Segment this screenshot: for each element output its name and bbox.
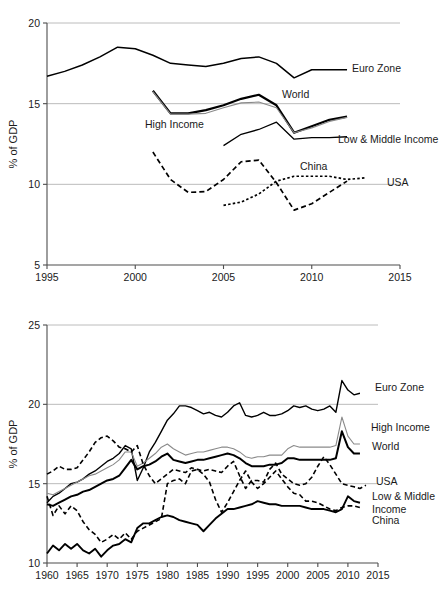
x-tick-label-1995: 1995: [35, 271, 59, 283]
gridlines-group: [47, 23, 400, 184]
x-tick-label-2005: 2005: [306, 569, 330, 581]
series-label-high-income: High Income: [371, 421, 430, 433]
x-tick-label-1990: 1990: [216, 569, 240, 581]
x-tick-label-1970: 1970: [96, 569, 120, 581]
series-group: [47, 47, 365, 210]
y-tick-group: 10152025: [28, 319, 47, 569]
x-tick-label-1965: 1965: [65, 569, 89, 581]
series-label-low-middle-income: Low & Middle Income: [338, 133, 439, 145]
x-tick-label-2010: 2010: [300, 271, 324, 283]
chart-top-svg: 510152019952000200520102015% of GDPEuro …: [0, 0, 447, 300]
series-line-high-income: [47, 417, 360, 495]
chart-bottom-panel: 1015202519601965197019751980198519901995…: [0, 300, 447, 598]
y-tick-group: 5101520: [28, 17, 47, 271]
series-label-world: World: [372, 440, 399, 452]
x-tick-label-2000: 2000: [124, 271, 148, 283]
y-tick-label-5: 5: [34, 259, 40, 271]
series-label-high-income: High Income: [145, 118, 204, 130]
x-tick-label-2005: 2005: [212, 271, 236, 283]
series-label-euro-zone: Euro Zone: [375, 381, 424, 393]
series-label-world: World: [282, 88, 309, 100]
x-tick-group: 19952000200520102015: [35, 265, 412, 283]
y-tick-label-20: 20: [28, 398, 40, 410]
series-label-china: China: [372, 514, 400, 526]
series-line-world: [47, 431, 360, 506]
series-line-low-middle-income: [47, 496, 360, 556]
x-tick-label-2010: 2010: [336, 569, 360, 581]
series-line-usa: [224, 176, 365, 205]
y-tick-label-10: 10: [28, 557, 40, 569]
y-tick-label-15: 15: [28, 478, 40, 490]
x-tick-label-1980: 1980: [156, 569, 180, 581]
chart-bottom-svg: 1015202519601965197019751980198519901995…: [0, 300, 447, 598]
series-line-euro-zone: [47, 47, 347, 78]
y-tick-label-15: 15: [28, 98, 40, 110]
series-line-low-middle-income: [224, 122, 348, 145]
y-axis-title: % of GDP: [7, 420, 19, 469]
top-series-labels: Euro ZoneWorldHigh IncomeLow & Middle In…: [145, 62, 439, 188]
y-tick-label-10: 10: [28, 178, 40, 190]
x-tick-label-2015: 2015: [366, 569, 390, 581]
series-line-euro-zone: [47, 381, 360, 503]
series-group: [47, 381, 366, 557]
series-label-low-middle: Low & Middle: [372, 490, 435, 502]
series-label-usa: USA: [376, 475, 398, 487]
axes-group: [47, 325, 378, 563]
series-line-usa: [47, 436, 366, 488]
series-label-euro-zone: Euro Zone: [352, 62, 401, 74]
x-tick-label-2000: 2000: [276, 569, 300, 581]
x-tick-label-1960: 1960: [35, 569, 59, 581]
x-tick-group: 1960196519701975198019851990199520002005…: [35, 563, 390, 581]
x-tick-label-1995: 1995: [246, 569, 270, 581]
y-tick-label-25: 25: [28, 319, 40, 331]
series-label-usa: USA: [387, 176, 409, 188]
chart-top-panel: 510152019952000200520102015% of GDPEuro …: [0, 0, 447, 300]
x-tick-label-1985: 1985: [186, 569, 210, 581]
y-axis-title: % of GDP: [7, 120, 19, 169]
x-tick-label-1975: 1975: [126, 569, 150, 581]
y-tick-label-20: 20: [28, 17, 40, 29]
bottom-series-labels: Euro ZoneHigh IncomeWorldUSALow & Middle…: [371, 381, 435, 526]
x-tick-label-2015: 2015: [388, 271, 412, 283]
series-label-china: China: [300, 160, 328, 172]
